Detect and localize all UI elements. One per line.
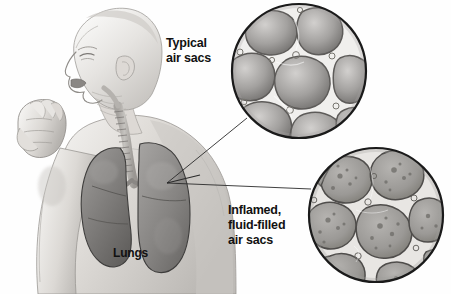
- pneumonia-illustration: [0, 0, 451, 294]
- illustration-canvas: Typical air sacs Inflamed, fluid-filled …: [0, 0, 451, 294]
- label-lungs: Lungs: [113, 246, 148, 260]
- label-inflamed-air-sacs: Inflamed, fluid-filled air sacs: [228, 203, 285, 247]
- label-typical-air-sacs: Typical air sacs: [166, 36, 211, 66]
- left-lung-highlight: [90, 160, 118, 184]
- right-lung-highlight: [146, 162, 178, 190]
- right-lung-highlight-2: [154, 218, 182, 254]
- elbow-shadow: [38, 166, 66, 206]
